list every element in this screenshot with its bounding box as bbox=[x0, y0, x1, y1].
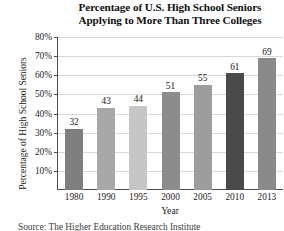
bar[interactable] bbox=[97, 108, 115, 190]
bar-column[interactable]: 32 bbox=[65, 37, 83, 190]
bar[interactable] bbox=[129, 106, 147, 190]
x-axis-title: Year bbox=[57, 205, 283, 216]
bar-column[interactable]: 55 bbox=[194, 37, 212, 190]
y-tick-label: 20% bbox=[35, 147, 52, 157]
x-tick-label: 2005 bbox=[187, 192, 219, 202]
chart-title: Percentage of U.S. High School Seniors A… bbox=[56, 1, 284, 26]
y-tick-label: 50% bbox=[35, 89, 52, 99]
x-tick-label: 2013 bbox=[251, 192, 283, 202]
bar-column[interactable]: 43 bbox=[97, 37, 115, 190]
bar-value-label: 69 bbox=[262, 47, 271, 57]
bar-chart-figure: Percentage of U.S. High School Seniors A… bbox=[0, 0, 284, 231]
x-tick-label: 1990 bbox=[90, 192, 122, 202]
y-axis-title: Percentage of High School Seniors bbox=[17, 39, 28, 209]
x-tick-label: 2000 bbox=[154, 192, 186, 202]
y-tick-label: 80% bbox=[35, 32, 52, 42]
bars-group: 32434451556169 bbox=[58, 37, 283, 190]
x-axis-tick-labels: 1980199019952000200520102013 bbox=[58, 192, 283, 205]
bar-column[interactable]: 69 bbox=[258, 37, 276, 190]
bar[interactable] bbox=[226, 73, 244, 190]
chart-title-line-2: Applying to More Than Three Colleges bbox=[56, 14, 284, 27]
plot-area: 10%20%30%40%50%60%70%80% 32434451556169 bbox=[57, 37, 283, 190]
bar-value-label: 43 bbox=[102, 96, 111, 106]
bar-column[interactable]: 61 bbox=[226, 37, 244, 190]
bar[interactable] bbox=[162, 92, 180, 190]
bar-value-label: 44 bbox=[134, 94, 143, 104]
bar-value-label: 55 bbox=[198, 73, 207, 83]
x-tick-label: 1980 bbox=[58, 192, 90, 202]
y-tick-label: 30% bbox=[35, 128, 52, 138]
bar[interactable] bbox=[194, 85, 212, 190]
y-tick-label: 40% bbox=[35, 109, 52, 119]
bar-value-label: 61 bbox=[230, 62, 239, 72]
bar-value-label: 51 bbox=[166, 81, 175, 91]
y-tick-label: 60% bbox=[35, 70, 52, 80]
x-tick-label: 1995 bbox=[122, 192, 154, 202]
bar-value-label: 32 bbox=[69, 117, 78, 127]
x-tick-label: 2010 bbox=[219, 192, 251, 202]
y-tick-label: 10% bbox=[35, 166, 52, 176]
y-tick-label: 70% bbox=[35, 51, 52, 61]
chart-title-line-1: Percentage of U.S. High School Seniors bbox=[56, 1, 284, 14]
bar-column[interactable]: 51 bbox=[162, 37, 180, 190]
bar[interactable] bbox=[65, 129, 83, 190]
bar[interactable] bbox=[258, 58, 276, 190]
source-note: Source: The Higher Education Research In… bbox=[18, 222, 284, 231]
bar-column[interactable]: 44 bbox=[129, 37, 147, 190]
